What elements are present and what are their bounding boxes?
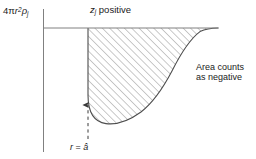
- area-note-line-2: as negative: [196, 72, 242, 82]
- a-hat-symbol: â: [83, 142, 88, 152]
- figure-container: 4πr2ρj zj positive Area countsas negativ…: [0, 0, 256, 159]
- zj-positive-label: zj positive: [90, 5, 131, 16]
- zj-positive-text: positive: [96, 4, 131, 15]
- y-axis-label: 4πr2ρj: [3, 6, 29, 17]
- area-negative-annotation: Area countsas negative: [196, 62, 244, 82]
- r-equals-a-hat-label: r = â: [70, 142, 88, 152]
- area-note-line-1: Area counts: [196, 62, 244, 72]
- equals-sign: =: [73, 142, 83, 152]
- y-axis-subscript: j: [27, 10, 28, 17]
